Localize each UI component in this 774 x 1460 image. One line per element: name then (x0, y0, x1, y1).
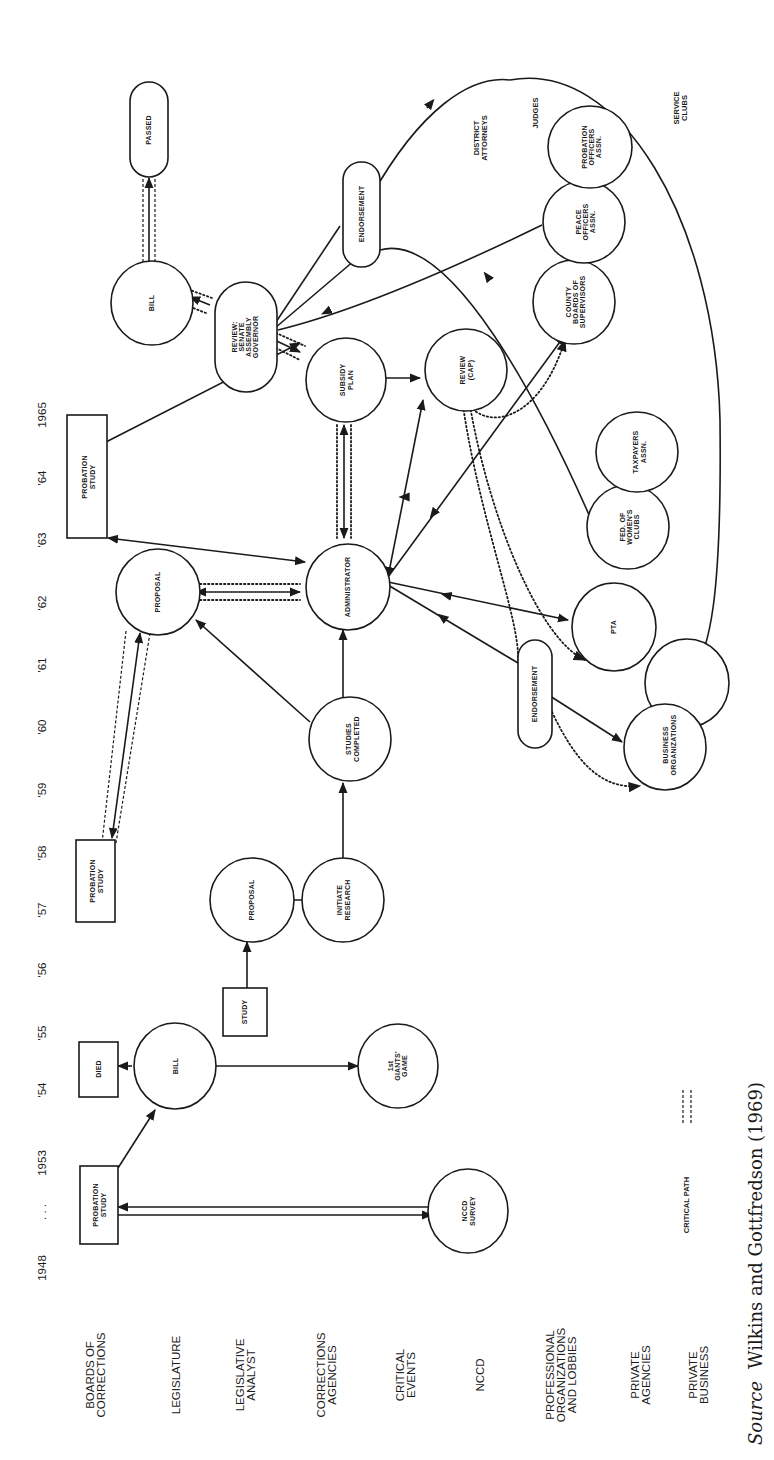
policy-network-diagram: 1948 . . . 1953 '54 '55 '56 '57 '58 '59 … (0, 0, 774, 1460)
node-administrator: ADMINISTRATOR (306, 544, 390, 630)
node-nccd-survey: NCCDSURVEY (428, 1169, 508, 1253)
year-label: '57 (36, 903, 48, 918)
node-proposal-1962: PROPOSAL (116, 549, 200, 635)
year-label: '60 (36, 720, 48, 735)
row-label-private-agencies: PRIVATEAGENCIES (629, 1345, 652, 1405)
node-giants-game: 1stGIANTS'GAME (358, 1024, 438, 1108)
legend: CRITICAL PATH (682, 1090, 691, 1233)
node-subsidy-plan: SUBSIDYPLAN (306, 338, 386, 422)
year-label: '61 (36, 658, 48, 673)
year-label: '63 (36, 533, 48, 548)
svg-text:DIED: DIED (95, 1060, 102, 1078)
legend-label-critical-path: CRITICAL PATH (682, 1177, 691, 1233)
row-labels: BOARDS OFCORRECTIONS LEGISLATURE LEGISLA… (84, 1328, 710, 1423)
node-proposal-1957: PROPOSAL (210, 858, 294, 942)
timeline-axis: 1948 . . . 1953 '54 '55 '56 '57 '58 '59 … (36, 402, 48, 1281)
svg-text:PASSED: PASSED (145, 115, 152, 144)
row-label-corrections-agencies: CORRECTIONSAGENCIES (315, 1332, 338, 1417)
year-label: 1965 (36, 402, 48, 428)
svg-text:PTA: PTA (610, 620, 617, 634)
node-review-legislature: REVIEW:SENATEASSEMBLYGOVERNOR (215, 282, 277, 392)
node-probation-study-1958: PROBATIONSTUDY (76, 840, 115, 922)
year-label: '54 (36, 1082, 48, 1098)
annotation-judges: JUDGES (531, 98, 540, 129)
node-probation-study-1953: PROBATIONSTUDY (80, 1166, 118, 1244)
row-label-legislative-analyst: LEGISLATIVEANALYST (234, 1338, 257, 1411)
svg-text:STUDY: STUDY (241, 1000, 248, 1025)
node-taxpayers-assn: TAXPAYERSASSN. (596, 412, 678, 492)
node-passed: PASSED (130, 82, 168, 177)
annotation-district-attorneys: DISTRICTATTORNEYS (472, 115, 489, 161)
svg-text:BILL: BILL (148, 294, 155, 311)
node-study-1956: STUDY (223, 988, 267, 1036)
node-fed-womens-clubs: FED. OFWOMEN'SCLUBS (587, 485, 669, 569)
year-label: '62 (36, 596, 48, 611)
row-label-private-business: PRIVATEBUSINESS (687, 1346, 710, 1404)
svg-text:ENDORSEMENT: ENDORSEMENT (531, 665, 538, 722)
year-label: '56 (36, 963, 48, 978)
svg-text:ADMINISTRATOR: ADMINISTRATOR (344, 557, 351, 618)
node-endorsement-upper: ENDORSEMENT (343, 162, 380, 267)
node-studies-completed: STUDIESCOMPLETED (309, 697, 391, 781)
row-label-nccd: NCCD (474, 1358, 486, 1391)
svg-text:BILL: BILL (172, 1057, 179, 1074)
node-county-boards: COUNTYBOARDS OFSUPERVISORS (533, 260, 615, 344)
year-label: '59 (36, 783, 48, 798)
node-probation-study-1963: PROBATIONSTUDY (67, 415, 107, 538)
row-label-critical-events: CRITICALEVENTS (394, 1348, 417, 1401)
source-caption: SourceWilkins and Gottfredson (1969) (745, 1082, 766, 1445)
row-label-boards-of-corrections: BOARDS OFCORRECTIONS (84, 1332, 107, 1417)
row-label-professional-orgs: PROFESSIONALORGANIZATIONSAND LOBBIES (544, 1328, 578, 1423)
year-label: '55 (36, 1026, 48, 1041)
year-label: '64 (36, 470, 48, 486)
svg-text:ENDORSEMENT: ENDORSEMENT (358, 185, 365, 242)
node-review-cap: REVIEW(CAP) (425, 329, 507, 411)
svg-text:PROPOSAL: PROPOSAL (248, 879, 255, 920)
node-peace-officers-assn: PEACEOFFICERSASSN. (543, 181, 625, 263)
node-bill-1965: BILL (111, 261, 193, 345)
node-probation-officers-assn: PROBATIONOFFICERSASSN. (548, 106, 632, 188)
row-label-legislature: LEGISLATURE (170, 1335, 182, 1414)
node-pta: PTA (572, 583, 656, 671)
svg-text:PROPOSAL: PROPOSAL (154, 571, 161, 612)
svg-text:FED. OFWOMEN'SCLUBS: FED. OFWOMEN'SCLUBS (619, 509, 640, 544)
node-endorsement-lower: ENDORSEMENT (518, 640, 552, 748)
svg-text:INITIATERESEARCH: INITIATERESEARCH (336, 880, 351, 921)
year-label: 1948 (36, 1255, 48, 1281)
year-ellipsis: . . . (36, 1204, 48, 1220)
svg-text:REVIEW:SENATEASSEMBLYGOVERNOR: REVIEW:SENATEASSEMBLYGOVERNOR (231, 316, 259, 358)
node-initiate-research: INITIATERESEARCH (302, 858, 384, 942)
nodes: PROBATIONSTUDY NCCDSURVEY BILL DIED 1stG… (67, 82, 729, 1253)
node-bill-1954: BILL (134, 1023, 216, 1109)
node-died: DIED (79, 1042, 118, 1097)
year-label: 1953 (36, 1150, 48, 1176)
year-label: '58 (36, 846, 48, 861)
annotation-service-clubs: SERVICECLUBS (672, 92, 689, 125)
